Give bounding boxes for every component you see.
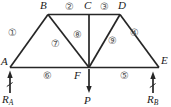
truss-diagram: A B C D E F ① ② ③ ④ ⑤ ⑥ ⑦ ⑧ ⑨ RA RB P (0, 0, 171, 107)
member-label-2: ② (65, 2, 74, 12)
member-label-8: ⑧ (73, 30, 82, 40)
node-label-C: C (84, 0, 91, 11)
reaction-left-subscript: A (9, 98, 14, 107)
truss-geometry (0, 0, 171, 107)
node-label-A: A (1, 56, 8, 67)
member-label-4: ④ (130, 28, 139, 38)
member-label-3: ③ (100, 2, 109, 12)
member-line-AB (10, 15, 48, 68)
member-label-9: ⑨ (108, 36, 117, 46)
reaction-label-left: RA (2, 94, 13, 107)
member-label-5: ⑤ (120, 71, 129, 81)
load-arrow (86, 69, 91, 93)
node-label-B: B (40, 0, 47, 11)
member-label-7: ⑦ (51, 39, 60, 49)
member-label-1: ① (8, 28, 17, 38)
reaction-arrow-left (7, 71, 13, 94)
node-label-D: D (118, 0, 126, 11)
reaction-left-symbol: R (2, 93, 9, 105)
reaction-right-symbol: R (147, 93, 154, 105)
reaction-label-right: RB (147, 94, 158, 107)
member-label-6: ⑥ (43, 71, 52, 81)
member-line-DE (120, 15, 159, 68)
load-label: P (84, 95, 91, 106)
reaction-right-subscript: B (154, 98, 159, 107)
node-label-E: E (161, 55, 168, 66)
truss-members (10, 15, 159, 68)
node-label-F: F (74, 70, 81, 81)
reaction-arrow-right (150, 72, 156, 94)
